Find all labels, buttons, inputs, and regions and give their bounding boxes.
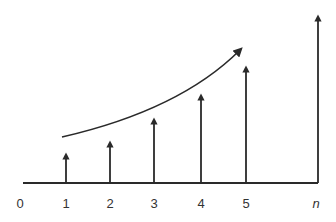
growth-trend-arrow xyxy=(62,50,240,137)
axis-label-4: 4 xyxy=(197,196,204,211)
axis-label-2: 2 xyxy=(106,196,113,211)
axis-label-3: 3 xyxy=(150,196,157,211)
axis-label-0: 0 xyxy=(16,196,23,211)
axis-label-1: 1 xyxy=(62,196,69,211)
axis-label-n: n xyxy=(312,196,319,211)
stem-arrows xyxy=(66,18,318,183)
diagram-canvas xyxy=(0,0,336,222)
axis-label-5: 5 xyxy=(242,196,249,211)
